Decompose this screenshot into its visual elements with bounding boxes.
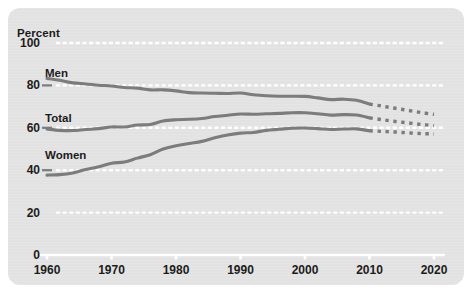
line-chart-svg	[0, 0, 472, 293]
y-tick-label: 20	[10, 206, 40, 220]
x-tick-label: 1980	[148, 263, 204, 277]
x-axis-group	[40, 255, 445, 260]
series-label-total: Total	[45, 112, 72, 124]
series-projection-men	[370, 104, 435, 114]
y-tick-label: 100	[10, 36, 40, 50]
x-tick-label: 2020	[406, 263, 462, 277]
series-label-women: Women	[45, 149, 86, 161]
x-tick-label: 1970	[84, 263, 140, 277]
y-tick-label: 80	[10, 78, 40, 92]
y-tick-label: 40	[10, 163, 40, 177]
series-label-men: Men	[45, 67, 68, 79]
series-projection-total	[370, 118, 435, 126]
series-line-women	[47, 128, 370, 175]
chart-screenshot: Percent 100806040200 1960197019801990200…	[0, 0, 472, 293]
x-tick-label: 1990	[213, 263, 269, 277]
x-tick-label: 2000	[277, 263, 333, 277]
series-line-men	[47, 78, 370, 104]
series-projection-women	[370, 131, 435, 134]
x-tick-label: 2010	[342, 263, 398, 277]
y-tick-label: 0	[10, 248, 40, 262]
x-tick-label: 1960	[19, 263, 75, 277]
y-tick-label: 60	[10, 121, 40, 135]
